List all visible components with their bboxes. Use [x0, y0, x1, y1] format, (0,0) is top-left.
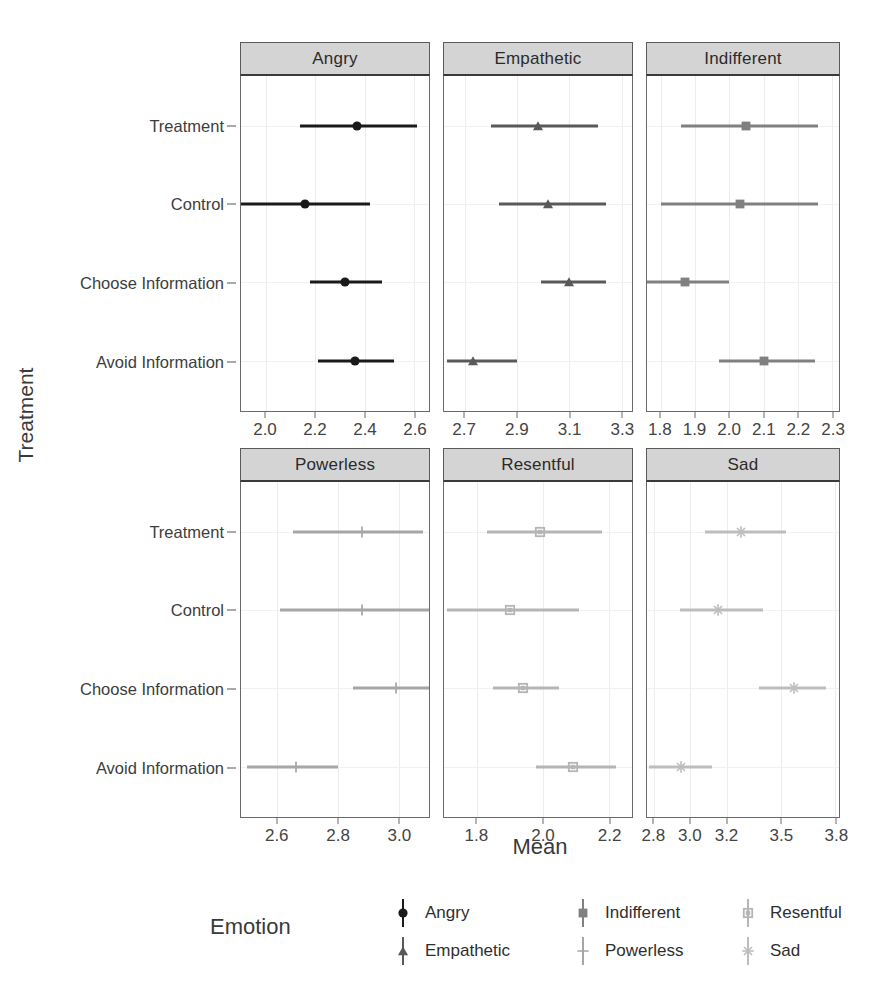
legend-item-resentful[interactable]: Resentful [735, 896, 842, 930]
legend-key-glyph [576, 944, 590, 958]
legend-title: Emotion [210, 914, 291, 940]
legend-item-label: Empathetic [425, 941, 510, 961]
y-axis-tick [227, 125, 236, 126]
legend-item-indifferent[interactable]: Indifferent [570, 896, 680, 930]
y-axis-tick-label: Treatment [149, 522, 224, 541]
x-axis-tick [609, 818, 610, 824]
plot-area [646, 76, 840, 412]
facet-strip-label: Resentful [443, 448, 633, 482]
x-axis-tick [365, 412, 366, 418]
data-point-marker [734, 525, 748, 539]
data-point-marker [757, 354, 771, 368]
legend-key-filled-square-icon [570, 896, 596, 930]
x-axis-tick [781, 818, 782, 824]
x-axis-tick-label: 1.8 [465, 826, 489, 846]
data-point-marker [787, 681, 801, 695]
facet-row-top: AngryEmpatheticIndifferent [240, 42, 840, 412]
x-axis-tick-label: 3.2 [715, 826, 739, 846]
x-axis-tick-label: 2.2 [787, 420, 811, 440]
data-point-marker [503, 603, 517, 617]
y-axis-tick-label: Avoid Information [96, 758, 224, 777]
data-point-marker [298, 197, 312, 211]
data-point-marker [566, 760, 580, 774]
y-axis-tick-label: Avoid Information [96, 352, 224, 371]
x-axis-tick [836, 818, 837, 824]
legend-item-label: Powerless [605, 941, 683, 961]
x-axis-tick-label: 2.0 [253, 420, 277, 440]
x-axis-tick-label: 2.7 [452, 420, 476, 440]
legend-item-label: Sad [770, 941, 800, 961]
facet-strip-label: Indifferent [646, 42, 840, 76]
y-axis-tick [227, 610, 236, 611]
x-axis-tick [276, 818, 277, 824]
x-axis-tick [415, 412, 416, 418]
x-axis-tick-label: 2.0 [531, 826, 555, 846]
y-axis-tick [227, 767, 236, 768]
y-axis-tick-label: Choose Information [80, 679, 224, 698]
x-axis-tick-label: 1.8 [648, 420, 672, 440]
data-point-marker [711, 603, 725, 617]
x-axis-tick [653, 818, 654, 824]
x-axis-tick [694, 412, 695, 418]
x-axis-tick-label: 3.0 [678, 826, 702, 846]
y-axis-tick-label: Treatment [149, 116, 224, 135]
x-axis-angry: 2.02.22.42.6 [240, 412, 430, 448]
x-axis-tick [729, 412, 730, 418]
x-axis-tick [726, 818, 727, 824]
x-axis-tick-label: 2.6 [403, 420, 427, 440]
x-axis-tick [464, 412, 465, 418]
legend-key-plus-icon [570, 934, 596, 968]
data-point-marker [533, 525, 547, 539]
y-axis-labels-row-0: TreatmentControlChoose InformationAvoid … [0, 76, 238, 412]
x-axis-empathetic: 2.72.93.13.3 [443, 412, 633, 448]
facet-panel-sad: Sad [646, 448, 840, 818]
x-axis-tick [622, 412, 623, 418]
legend-item-powerless[interactable]: Powerless [570, 934, 683, 968]
legend-item-empathetic[interactable]: Empathetic [390, 934, 510, 968]
plot-area [240, 76, 430, 412]
x-axis-tick-label: 2.2 [303, 420, 327, 440]
plot-area [240, 482, 430, 818]
facet-strip-label: Sad [646, 448, 840, 482]
x-axis-indifferent: 1.81.92.02.12.22.3 [646, 412, 840, 448]
plot-area [443, 76, 633, 412]
y-axis-labels-row-1: TreatmentControlChoose InformationAvoid … [0, 482, 238, 818]
y-axis-tick [227, 531, 236, 532]
facet-strip-label: Powerless [240, 448, 430, 482]
data-point-marker [678, 275, 692, 289]
x-axis-resentful: 1.82.02.2 [443, 818, 633, 854]
legend-key-glyph [741, 906, 755, 920]
legend-item-angry[interactable]: Angry [390, 896, 469, 930]
data-point-marker [389, 681, 403, 695]
legend-key-glyph [741, 944, 755, 958]
confidence-interval-bar [447, 359, 518, 362]
x-axis-tick [569, 412, 570, 418]
legend-key-filled-triangle-icon [390, 934, 416, 968]
data-point-marker [516, 681, 530, 695]
x-axis-tick-label: 3.5 [770, 826, 794, 846]
x-axis-tick-label: 2.9 [505, 420, 529, 440]
x-axis-tick-label: 3.3 [611, 420, 635, 440]
facet-panel-angry: Angry [240, 42, 430, 412]
x-axis-tick-label: 2.8 [326, 826, 350, 846]
legend-key-glyph [576, 906, 590, 920]
x-axis-tick [763, 412, 764, 418]
x-axis-tick-label: 2.0 [717, 420, 741, 440]
x-axis-tick-label: 2.4 [353, 420, 377, 440]
data-point-marker [466, 354, 480, 368]
x-axis-tick-label: 3.8 [825, 826, 849, 846]
legend-key-filled-circle-icon [390, 896, 416, 930]
data-point-marker [338, 275, 352, 289]
legend-item-label: Resentful [770, 903, 842, 923]
x-axis-tick-label: 3.0 [388, 826, 412, 846]
legend-item-sad[interactable]: Sad [735, 934, 800, 968]
x-axis-tick [399, 818, 400, 824]
plot-area [646, 482, 840, 818]
legend-item-label: Angry [425, 903, 469, 923]
x-axis-tick [265, 412, 266, 418]
x-axis-tick [338, 818, 339, 824]
x-axis-tick [314, 412, 315, 418]
data-point-marker [531, 119, 545, 133]
legend-key-glyph [396, 906, 410, 920]
x-axis-tick-label: 2.6 [265, 826, 289, 846]
